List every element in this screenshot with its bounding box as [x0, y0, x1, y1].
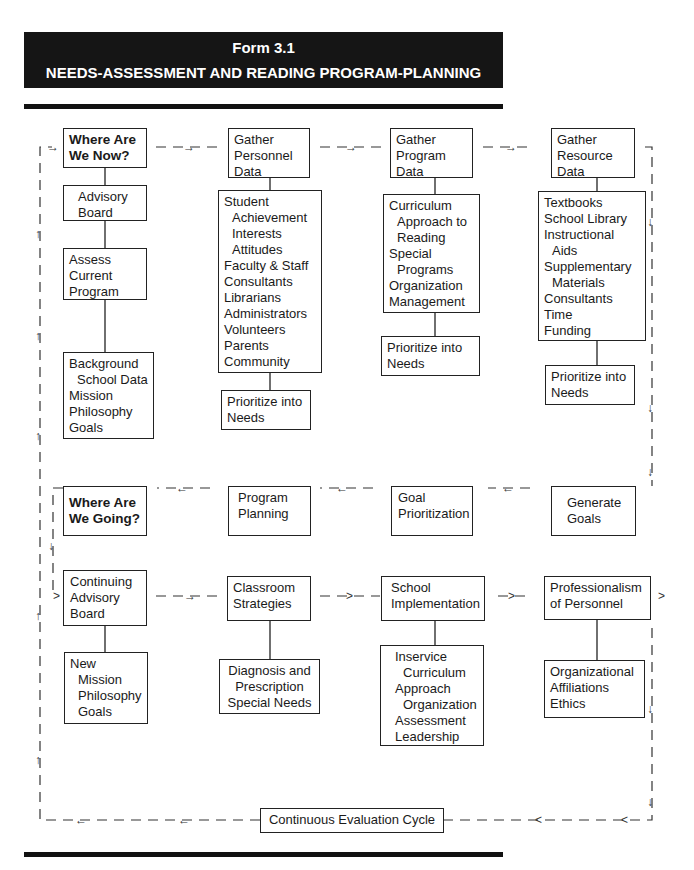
gather-personnel-data-box: Gather Personnel Data: [228, 128, 310, 178]
top-rule: [24, 104, 503, 109]
arrow-down-icon: ↓: [647, 216, 653, 228]
arrow-up-icon: ↑: [35, 330, 41, 342]
arrow-left-icon: ←: [502, 482, 514, 494]
form-number: Form 3.1: [24, 39, 503, 56]
arrow-up-icon: ↑: [35, 228, 41, 240]
arrow-right-icon: →: [345, 141, 357, 153]
personnel-prioritize-box: Prioritize into Needs: [221, 390, 311, 430]
arrow-down-icon: ↓: [647, 703, 653, 715]
assess-current-program-box: Assess Current Program: [63, 248, 147, 300]
bottom-rule: [24, 852, 503, 857]
arrow-up-icon: ↑: [35, 430, 41, 442]
classroom-strategies-box: Classroom Strategies: [227, 576, 311, 621]
where-are-we-going-box: Where Are We Going?: [63, 486, 147, 536]
arrow-right-icon: →: [47, 141, 59, 153]
arrow-up-icon: ↑: [35, 754, 41, 766]
arrow-down-icon: ↓: [48, 540, 54, 552]
inservice-box: Inservice Curriculum Approach Organizati…: [380, 645, 484, 746]
arrow-left-icon: ←: [336, 482, 348, 494]
arrow-left-icon: <: [621, 814, 628, 826]
new-mission-box: New Mission Philosophy Goals: [64, 652, 148, 724]
form-header-banner: Form 3.1 NEEDS-ASSESSMENT AND READING PR…: [24, 32, 503, 88]
arrow-right-icon: >: [508, 590, 515, 602]
arrow-down-icon: ↓: [647, 402, 653, 414]
goal-prioritization-box: Goal Prioritization: [391, 486, 473, 536]
program-prioritize-box: Prioritize into Needs: [381, 336, 480, 376]
form-title: NEEDS-ASSESSMENT AND READING PROGRAM-PLA…: [24, 64, 503, 81]
arrow-right-icon: >: [658, 590, 665, 602]
background-box: Background School Data Mission Philosoph…: [63, 352, 154, 439]
arrow-left-icon: ←: [75, 814, 87, 826]
arrow-down-icon: ↓: [647, 796, 653, 808]
professionalism-box: Professionalism of Personnel: [544, 576, 651, 620]
arrow-down-icon: ↓: [647, 466, 653, 478]
resource-prioritize-box: Prioritize into Needs: [545, 365, 635, 405]
arrow-up-icon: ↑: [35, 610, 41, 622]
diagnosis-box: Diagnosis and Prescription Special Needs: [219, 659, 320, 714]
arrow-right-icon: >: [346, 590, 353, 602]
arrow-right-icon: →: [183, 141, 195, 153]
arrow-right-icon: →: [505, 141, 517, 153]
where-are-we-now-box: Where Are We Now?: [63, 128, 147, 168]
continuing-advisory-board-box: Continuing Advisory Board: [63, 570, 147, 626]
school-implementation-box: School Implementation: [381, 576, 485, 621]
program-list-box: Curriculum Approach to Reading Special P…: [383, 194, 480, 313]
arrow-left-icon: <: [535, 814, 542, 826]
gather-program-data-box: Gather Program Data: [390, 128, 473, 178]
arrow-right-icon: >: [53, 590, 60, 602]
resource-list-box: Textbooks School Library Instructional A…: [538, 191, 646, 341]
arrow-left-icon: ←: [178, 814, 190, 826]
continuous-evaluation-cycle-box: Continuous Evaluation Cycle: [260, 808, 444, 833]
arrow-right-icon: →: [184, 590, 196, 602]
program-planning-box: Program Planning: [228, 486, 311, 536]
advisory-board-box: Advisory Board: [63, 185, 147, 221]
gather-resource-data-box: Gather Resource Data: [551, 128, 635, 178]
personnel-list-box: Student Achievement Interests Attitudes …: [218, 190, 322, 373]
generate-goals-box: Generate Goals: [551, 486, 636, 536]
organizational-box: Organizational Affiliations Ethics: [544, 660, 645, 718]
arrow-left-icon: ←: [176, 482, 188, 494]
